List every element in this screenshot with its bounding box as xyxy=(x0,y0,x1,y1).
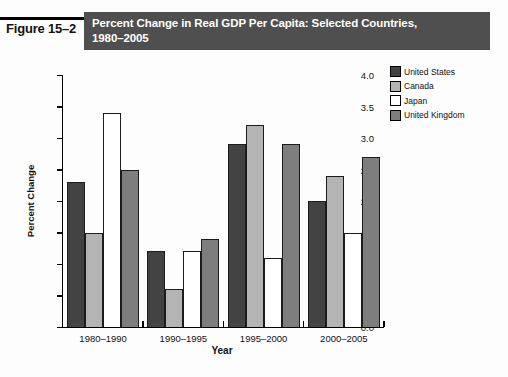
y-tick xyxy=(57,295,62,297)
legend-label: Canada xyxy=(404,81,434,91)
bar-japan xyxy=(264,258,282,327)
bar-japan xyxy=(183,251,201,327)
bar-united-states xyxy=(147,251,165,327)
y-tick xyxy=(57,327,62,329)
legend-item: United States xyxy=(390,66,464,77)
x-tick-label: 1980–1990 xyxy=(63,333,143,344)
legend-label: United Kingdom xyxy=(404,110,464,120)
legend-swatch-icon xyxy=(390,66,401,77)
bar-japan xyxy=(103,113,121,327)
x-tick-label: 2000–2005 xyxy=(304,333,384,344)
bar-canada xyxy=(246,125,264,327)
y-tick xyxy=(57,106,62,108)
x-tick-label: 1990–1995 xyxy=(143,333,223,344)
legend-label: United States xyxy=(404,67,455,77)
bar-group xyxy=(224,75,304,327)
bar-canada xyxy=(165,289,183,327)
figure-title-line2: 1980–2005 xyxy=(92,31,482,46)
legend: United StatesCanadaJapanUnited Kingdom xyxy=(390,66,464,124)
legend-swatch-icon xyxy=(390,95,401,106)
bar-united-kingdom xyxy=(282,144,300,327)
y-tick xyxy=(57,169,62,171)
bar-united-states xyxy=(308,201,326,327)
legend-label: Japan xyxy=(404,96,427,106)
y-tick xyxy=(57,138,62,140)
legend-item: Canada xyxy=(390,81,464,92)
plot-area: 0.00.51.01.52.02.53.03.54.01980–19901990… xyxy=(62,75,384,328)
y-tick xyxy=(57,75,62,77)
bar-canada xyxy=(326,176,344,327)
x-tick xyxy=(383,321,385,327)
y-tick xyxy=(57,201,62,203)
y-axis-label: Percent Change xyxy=(25,165,36,237)
x-tick-label: 1995–2000 xyxy=(224,333,304,344)
bar-group xyxy=(143,75,223,327)
y-tick xyxy=(57,264,62,266)
figure-title-line1: Percent Change in Real GDP Per Capita: S… xyxy=(92,16,482,31)
bar-canada xyxy=(85,233,103,328)
legend-swatch-icon xyxy=(390,110,401,121)
bar-united-states xyxy=(67,182,85,327)
figure-title-box: Percent Change in Real GDP Per Capita: S… xyxy=(84,12,490,50)
bar-united-states xyxy=(228,144,246,327)
bar-united-kingdom xyxy=(201,239,219,327)
legend-item: United Kingdom xyxy=(390,110,464,121)
figure-label-rule xyxy=(0,17,84,20)
bar-group xyxy=(304,75,384,327)
legend-item: Japan xyxy=(390,95,464,106)
figure-page: Figure 15–2 Percent Change in Real GDP P… xyxy=(0,0,508,377)
y-tick xyxy=(57,232,62,234)
legend-swatch-icon xyxy=(390,81,401,92)
bar-united-kingdom xyxy=(121,170,139,328)
bar-group xyxy=(63,75,143,327)
bar-japan xyxy=(344,233,362,328)
bar-united-kingdom xyxy=(362,157,380,327)
figure-label: Figure 15–2 xyxy=(6,21,82,36)
x-axis-label: Year xyxy=(211,345,232,356)
